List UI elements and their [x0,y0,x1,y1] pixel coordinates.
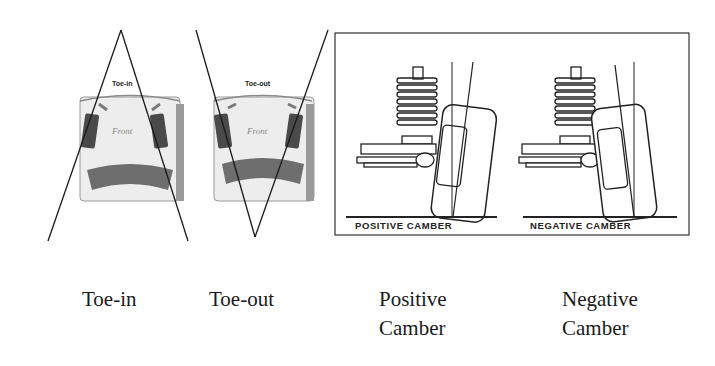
caption-negative-camber-line1: Negative [562,286,638,312]
caption-negative-camber-line2: Camber [562,315,628,341]
toe-out-inner-label: Toe-out [245,80,271,87]
camber-diagram: POSITIVE CAMBER [335,33,689,235]
caption-positive-camber-line1: Positive [379,286,447,312]
front-label: Front [111,126,133,136]
caption-toe-in: Toe-in [82,286,137,312]
caption-toe-out: Toe-out [209,286,274,312]
positive-camber-inner-label: POSITIVE CAMBER [355,220,452,231]
negative-camber-inner-label: NEGATIVE CAMBER [530,220,631,231]
toe-in-car: Toe-in Front [48,30,188,241]
caption-positive-camber-line2: Camber [379,315,445,341]
front-label: Front [246,126,268,136]
toe-out-car: Toe-out Front [196,30,328,237]
toe-in-inner-label: Toe-in [112,80,132,87]
